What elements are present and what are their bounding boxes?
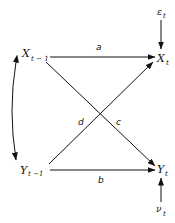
node-x-prev-base: X: [21, 47, 31, 60]
correlation-arrow: [12, 62, 16, 160]
node-y-prev-sub: t −1: [28, 170, 43, 178]
node-epsilon-base: ε: [157, 7, 162, 17]
edge-c-label: c: [116, 117, 121, 127]
node-nu: ν t: [156, 204, 166, 218]
edge-a-label: a: [96, 42, 102, 52]
edge-b-label: b: [98, 175, 104, 185]
edge-d-label: d: [78, 117, 84, 127]
node-x-curr-sub: t: [166, 59, 169, 67]
node-nu-sub: t: [163, 210, 166, 218]
node-nu-base: ν: [156, 204, 162, 214]
node-x-curr-base: X: [156, 52, 166, 65]
node-y-prev: Y t −1: [20, 164, 43, 178]
node-x-prev: X t − 1: [21, 47, 49, 63]
node-x-curr: X t: [156, 52, 169, 67]
node-y-curr: Y t: [157, 163, 168, 178]
node-epsilon: ε t: [157, 7, 166, 20]
node-y-curr-sub: t: [165, 170, 168, 178]
node-epsilon-sub: t: [163, 12, 166, 20]
node-x-prev-sub: t − 1: [31, 55, 49, 63]
path-diagram: a b c d X t − 1 X t Y t −1 Y t ε t ν t: [0, 0, 175, 223]
